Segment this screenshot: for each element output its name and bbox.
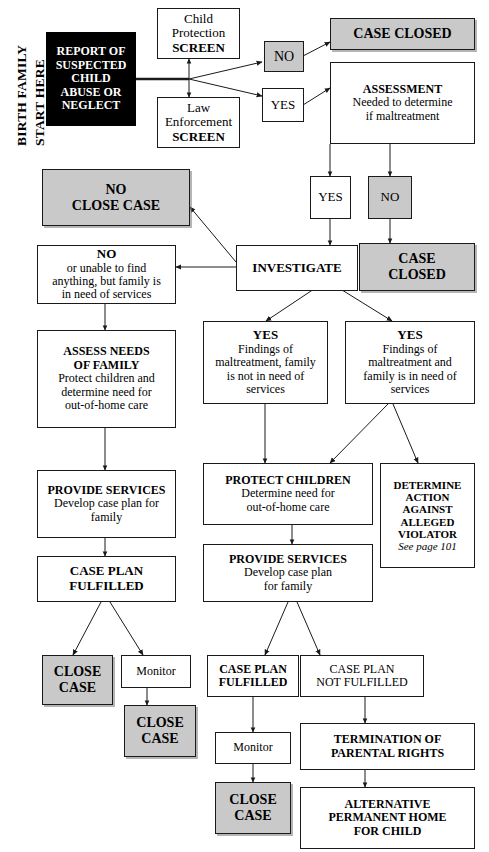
node-child-protection-screen[interactable]: Child Protection SCREEN xyxy=(157,8,240,59)
node-alternative-permanent-home[interactable]: ALTERNATIVE PERMANENT HOME FOR CHILD xyxy=(300,787,475,849)
node-case-closed-top[interactable]: CASE CLOSED xyxy=(330,18,475,50)
node-close-case-mid[interactable]: CLOSE CASE xyxy=(215,782,291,834)
node-protect-children[interactable]: PROTECT CHILDREN Determine need for out-… xyxy=(203,463,373,525)
side-label-start-here: START HERE xyxy=(32,59,48,146)
node-law-enforcement-screen[interactable]: Law Enforcement SCREEN xyxy=(157,97,240,148)
node-case-closed-right[interactable]: CASE CLOSED xyxy=(359,243,475,291)
node-provide-services-mid[interactable]: PROVIDE SERVICES Develop case plan for f… xyxy=(203,544,373,602)
node-assessment-no[interactable]: NO xyxy=(368,176,412,219)
node-screen-yes[interactable]: YES xyxy=(262,88,304,122)
node-assess-needs-of-family[interactable]: ASSESS NEEDS OF FAMILY Protect children … xyxy=(37,330,176,428)
node-termination-of-parental-rights[interactable]: TERMINATION OF PARENTAL RIGHTS xyxy=(300,723,475,770)
node-determine-action-against-alleged-violator[interactable]: DETERMINE ACTION AGAINST ALLEGED VIOLATO… xyxy=(380,463,475,568)
flowchart-canvas: BIRTH FAMILY START HERE REPORT OF SUSPEC… xyxy=(0,0,489,852)
node-no-or-unable-to-find[interactable]: NO or unable to find anything, but famil… xyxy=(37,245,176,304)
side-label-birth-family: BIRTH FAMILY xyxy=(14,45,30,146)
node-close-case-left[interactable]: CLOSE CASE xyxy=(42,655,113,705)
node-monitor-mid[interactable]: Monitor xyxy=(215,732,291,764)
node-close-case-left-2[interactable]: CLOSE CASE xyxy=(124,705,196,757)
node-case-plan-fulfilled-mid[interactable]: CASE PLAN FULFILLED xyxy=(207,655,299,697)
node-no-close-case[interactable]: NO CLOSE CASE xyxy=(42,169,190,226)
node-screen-no[interactable]: NO xyxy=(264,41,304,72)
node-provide-services-left[interactable]: PROVIDE SERVICES Develop case plan for f… xyxy=(37,470,176,538)
node-case-plan-not-fulfilled[interactable]: CASE PLAN NOT FULFILLED xyxy=(300,655,424,697)
node-case-plan-fulfilled-left[interactable]: CASE PLAN FULFILLED xyxy=(37,556,176,602)
node-monitor-left[interactable]: Monitor xyxy=(121,655,191,688)
node-report-of-suspected-abuse[interactable]: REPORT OF SUSPECTED CHILD ABUSE OR NEGLE… xyxy=(46,32,136,126)
node-yes-in-need-of-services[interactable]: YES Findings of maltreatment and family … xyxy=(345,321,475,404)
node-assessment[interactable]: ASSESSMENT Needed to determine if maltre… xyxy=(330,62,475,144)
node-yes-not-in-need-of-services[interactable]: YES Findings of maltreatment, family is … xyxy=(203,321,328,404)
node-assessment-yes[interactable]: YES xyxy=(310,176,351,219)
node-investigate[interactable]: INVESTIGATE xyxy=(236,245,358,291)
